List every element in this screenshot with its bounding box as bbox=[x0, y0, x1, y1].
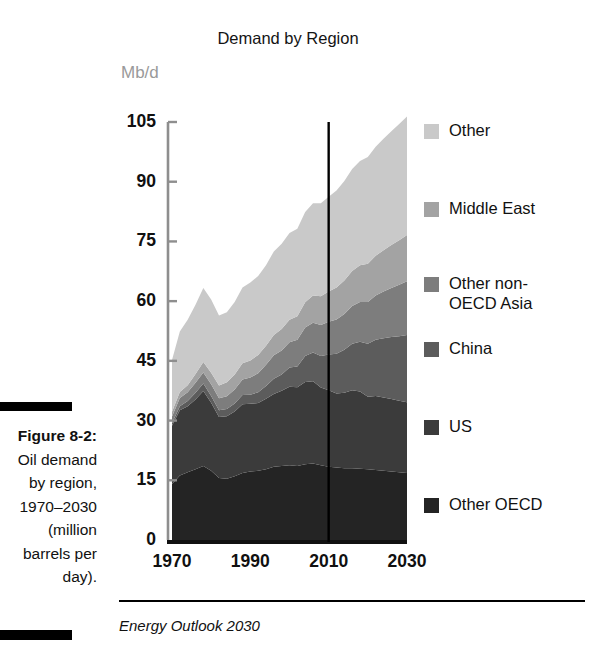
y-tick-label: 45 bbox=[112, 350, 156, 371]
y-tick-label: 30 bbox=[112, 410, 156, 431]
x-tick-label: 1990 bbox=[215, 551, 285, 572]
legend-label: Other non- OECD Asia bbox=[449, 273, 532, 313]
legend-label: Middle East bbox=[449, 198, 535, 218]
y-tick-label: 15 bbox=[112, 469, 156, 490]
legend-item[interactable]: Middle East bbox=[424, 198, 604, 218]
legend-swatch-icon bbox=[424, 277, 439, 292]
area-other_oecd bbox=[172, 464, 407, 540]
x-tick-label: 2030 bbox=[372, 551, 442, 572]
legend-swatch-icon bbox=[424, 498, 439, 513]
legend-item[interactable]: Other bbox=[424, 120, 604, 140]
x-tick-label: 2010 bbox=[294, 551, 364, 572]
legend-item[interactable]: US bbox=[424, 416, 604, 436]
x-tick-label: 1970 bbox=[137, 551, 207, 572]
y-tick-label: 105 bbox=[112, 111, 156, 132]
legend-label: Other OECD bbox=[449, 494, 543, 514]
legend-swatch-icon bbox=[424, 420, 439, 435]
source-label: Energy Outlook 2030 bbox=[119, 617, 260, 634]
legend-item[interactable]: China bbox=[424, 338, 604, 358]
legend-swatch-icon bbox=[424, 202, 439, 217]
source-rule bbox=[119, 600, 585, 602]
y-tick-label: 90 bbox=[112, 171, 156, 192]
legend-label: Other bbox=[449, 120, 490, 140]
legend-item[interactable]: Other non- OECD Asia bbox=[424, 273, 604, 313]
legend-label: US bbox=[449, 416, 472, 436]
y-tick-label: 60 bbox=[112, 290, 156, 311]
y-tick-label: 0 bbox=[112, 529, 156, 550]
area-series-group bbox=[172, 116, 407, 540]
legend-label: China bbox=[449, 338, 492, 358]
legend-swatch-icon bbox=[424, 124, 439, 139]
legend-swatch-icon bbox=[424, 342, 439, 357]
legend-item[interactable]: Other OECD bbox=[424, 494, 604, 514]
y-tick-label: 75 bbox=[112, 230, 156, 251]
